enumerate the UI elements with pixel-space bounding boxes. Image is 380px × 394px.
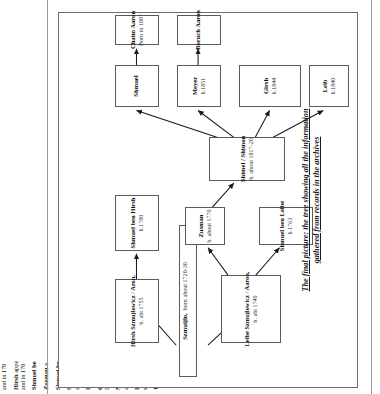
tree-node-chaim-aaron[interactable]: Chaim Aaron Born in 1887 [115,15,159,45]
note-item: Zusman a [42,0,49,394]
node-name: Hirsh Szmujlowicz / Aron, [129,275,137,347]
node-name: Girsh [262,78,270,94]
note-name: Shmuel be [30,361,37,390]
arrow-leibe-shmuelleibe [254,248,280,278]
tree-node-shmuel-ben-hirsh[interactable]: Shmuel ben Hirsh b.1780 [115,195,159,251]
tree-node-zusman[interactable]: Zusman b. about 1770 [185,207,225,245]
tree-node-shmuel[interactable]: Shmuel [115,65,159,107]
node-name: Shmuel ben Leibe [278,201,286,252]
tree-node-leibe[interactable]: Leibe Szmujlowicz / Aaron, b. abt 1740 [221,275,281,343]
node-date: b. about 1817-20 [248,138,255,179]
note-text: appe [12,361,19,373]
caption-line-1: The final picture: the tree showing all … [301,109,310,292]
node-name: Chaim Aaron [129,11,137,49]
node-date: born about 1720-30 [182,262,189,310]
tree-node-hirsh[interactable]: Hirsh Szmujlowicz / Aron, b. abt 1755 [115,279,159,343]
note-item: Hirsh appe and in 178 [12,0,27,394]
node-date: b.1844 [271,78,278,95]
node-name: Meyer [191,77,199,95]
node-name: Shmuel ben Hirsh [129,198,137,249]
node-name: Shimel / Shimon [239,136,247,182]
node-name: Shmuel [132,75,140,96]
footer-divider [371,0,372,394]
note-item: Leibe appe and in 178 [0,0,7,394]
arrow-leibe-zusman [208,248,230,278]
header-divider [47,0,48,394]
tree-node-girsh[interactable]: Girsh b.1844 [239,65,301,107]
node-date: b.1840 [330,78,337,95]
note-subtext: and in 178 [19,0,26,390]
note-subtext: and in 178 [0,0,7,390]
caption-line-2: gathered from records in the archives [312,137,321,264]
tree-node-meyer[interactable]: Meyer b.1851 [177,65,221,107]
arrow-shimel-meyer [198,110,238,140]
tree-node-szmuijlo[interactable]: Szmuijlo, born about 1720-30 [179,225,197,377]
diagram-caption: The final picture: the tree showing all … [300,12,322,388]
tree-node-boruch-aaron[interactable]: Boruch Aaron [177,15,221,45]
document-page: Szmuijlo i patronymic Leibe appe and in … [0,0,380,394]
node-name: Zusman [197,214,205,237]
note-item: Shmuel be [30,0,37,394]
note-name: Hirsh [12,373,19,390]
node-date: b.1780 [138,215,145,232]
arrow-shimel-girsh [254,110,270,140]
node-date: b.1763 [287,218,294,235]
rotated-page-wrapper: Szmuijlo i patronymic Leibe appe and in … [0,0,380,394]
arrow-shimel-shmuel [136,110,225,140]
node-date: b. about 1770 [206,209,213,242]
node-name: Boruch Aaron [194,10,202,50]
node-date: b.1851 [200,78,207,95]
node-date: Born in 1887 [138,14,145,46]
tree-node-shimel[interactable]: Shimel / Shimon b. about 1817-20 [209,137,285,181]
node-date: b. abt 1740 [252,295,259,322]
node-name: Leibe Szmujlowicz / Aaron, [243,272,251,347]
arrow-zusman-shimel [210,183,234,210]
node-date: b. abt 1755 [138,297,145,324]
node-name: Szmuijlo, [181,313,189,340]
